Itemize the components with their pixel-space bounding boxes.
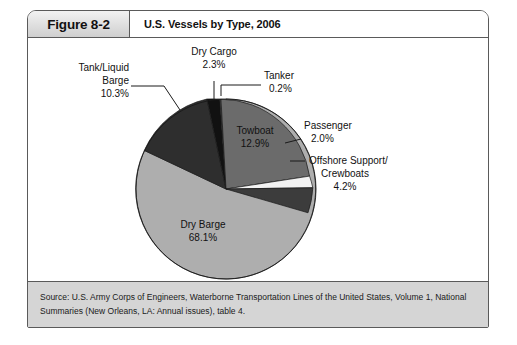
label-offshore-support-pct: 4.2% <box>334 181 357 192</box>
figure-header: Figure 8-2 U.S. Vessels by Type, 2006 <box>28 11 488 38</box>
label-tanker: Tanker <box>264 70 295 81</box>
label-towboat-pct: 12.9% <box>241 138 269 149</box>
figure-number: Figure 8-2 <box>47 17 110 32</box>
label-passenger: Passenger <box>304 120 352 131</box>
figure-number-cell: Figure 8-2 <box>28 11 130 37</box>
source-text: Source: U.S. Army Corps of Engineers, Wa… <box>40 290 476 318</box>
label-tank-liquid-barge-line1: Tank/Liquid <box>78 62 129 73</box>
figure-title-cell: U.S. Vessels by Type, 2006 <box>130 11 488 37</box>
label-dry-barge: Dry Barge <box>180 219 225 230</box>
label-offshore-support-line1: Offshore Support/ <box>309 155 388 166</box>
source-note: Source: U.S. Army Corps of Engineers, Wa… <box>28 281 488 327</box>
label-tank-liquid-barge-line2: Barge <box>102 75 129 86</box>
label-passenger-pct: 2.0% <box>311 133 334 144</box>
leader-line-tanker <box>221 85 261 96</box>
label-tanker-pct: 0.2% <box>269 83 292 94</box>
label-dry-cargo-pct: 2.3% <box>203 59 226 70</box>
label-offshore-support-line2: Crewboats <box>321 168 369 179</box>
figure-box: Figure 8-2 U.S. Vessels by Type, 2006 <box>27 10 489 328</box>
label-towboat: Towboat <box>236 125 273 136</box>
figure-title: U.S. Vessels by Type, 2006 <box>144 18 281 30</box>
pie-slices <box>136 99 316 279</box>
label-dry-cargo: Dry Cargo <box>191 46 237 57</box>
label-tank-liquid-barge-pct: 10.3% <box>101 88 129 99</box>
pie-chart-svg: Tank/Liquid Barge 10.3% Dry Cargo 2.3% T… <box>28 38 488 280</box>
label-dry-barge-pct: 68.1% <box>189 232 217 243</box>
pie-chart-area: Tank/Liquid Barge 10.3% Dry Cargo 2.3% T… <box>28 38 488 280</box>
leader-line-tank-liquid-barge <box>131 86 180 110</box>
